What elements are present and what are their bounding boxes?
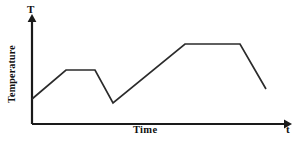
chart-plot-area (0, 0, 302, 143)
temperature-time-chart: T t Time Temperature (0, 0, 302, 143)
x-axis-title: Time (133, 124, 157, 135)
y-axis-symbol-label: T (27, 4, 34, 15)
y-axis-title: Temperature (6, 45, 17, 103)
y-axis-arrowhead (28, 14, 37, 22)
x-axis-symbol-label: t (286, 124, 290, 135)
temperature-curve (32, 44, 266, 103)
